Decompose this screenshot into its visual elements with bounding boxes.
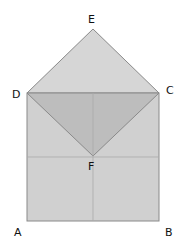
- label-c: C: [166, 84, 174, 97]
- label-b: B: [165, 226, 173, 239]
- triangle-dec: [27, 29, 159, 93]
- geometry-diagram: E D C F A B: [0, 0, 181, 242]
- label-a: A: [14, 226, 22, 239]
- label-d: D: [12, 88, 20, 101]
- label-f: F: [88, 160, 94, 173]
- label-e: E: [88, 13, 95, 26]
